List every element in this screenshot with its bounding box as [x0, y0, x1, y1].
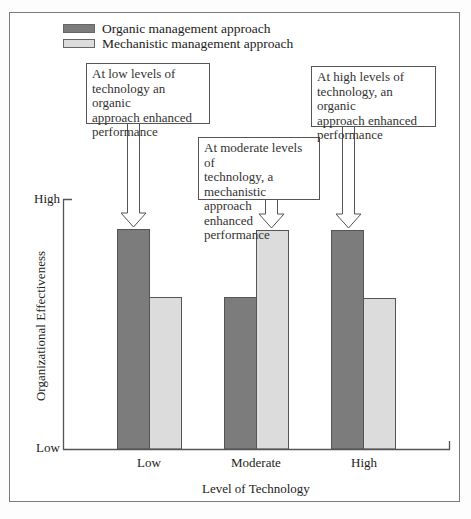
bar-low-organic: [118, 230, 150, 450]
x-tick-low: Low: [137, 455, 161, 471]
x-tick-moderate: Moderate: [231, 455, 281, 471]
bar-high-organic: [332, 231, 364, 450]
callout-moderate: At moderate levels of technology, a mech…: [198, 137, 320, 200]
y-tick-low: Low: [36, 440, 60, 456]
y-axis-title: Organizational Effectiveness: [33, 241, 49, 411]
y-tick-high: High: [34, 191, 60, 207]
bar-moderate-mechanistic: [257, 231, 289, 450]
bar-high-mechanistic: [364, 299, 396, 450]
callout-low: At low levels of technology an organic a…: [86, 63, 210, 124]
x-axis-title: Level of Technology: [202, 481, 310, 497]
bar-low-mechanistic: [150, 298, 182, 450]
bar-moderate-organic: [225, 298, 257, 450]
callout-high: At high levels of technology, an organic…: [311, 66, 436, 127]
x-tick-high: High: [351, 455, 377, 471]
